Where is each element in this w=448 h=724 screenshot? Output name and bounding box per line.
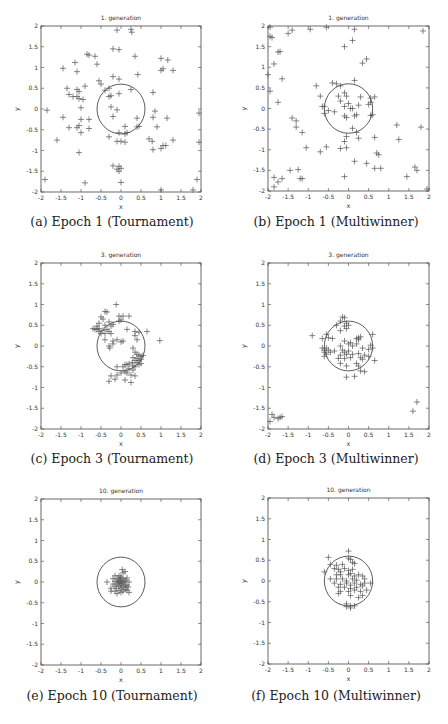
plus-marker [327,576,333,582]
x-tick-label: 1.5 [404,666,414,673]
y-tick-label: -1 [259,619,265,626]
data-points [321,548,373,611]
scatter-plot-f: 10. generation-2-1.5-1-0.500.511.52-2-1.… [0,0,448,724]
x-tick-label: 2 [427,666,431,673]
plus-marker [346,548,352,554]
y-tick-label: 2 [261,494,265,501]
x-tick-label: 1 [387,666,391,673]
y-tick-label: 0.5 [255,556,265,563]
x-axis-label: x [347,675,351,683]
x-tick-label: -1 [305,666,311,673]
y-tick-label: 0 [261,577,265,584]
y-tick-label: -2 [259,660,265,667]
x-tick-label: -1.5 [282,666,294,673]
panel-f: 10. generation-2-1.5-1-0.500.511.52-2-1.… [0,0,448,724]
plus-marker [364,587,370,593]
plus-marker [325,554,331,560]
plus-marker [356,572,362,578]
plus-marker [343,604,349,610]
plot-title: 10. generation [326,486,370,494]
y-axis-label: y [240,579,248,583]
caption-f: (f) Epoch 10 (Multiwinner) [224,688,448,703]
x-tick-label: -0.5 [323,666,335,673]
y-tick-label: -1.5 [253,639,265,646]
x-tick-label: -2 [265,666,271,673]
y-tick-label: -0.5 [253,598,265,605]
x-tick-label: 0 [347,666,351,673]
x-tick-label: 0.5 [364,666,374,673]
y-tick-label: 1.5 [255,515,265,522]
y-tick-label: 1 [261,536,265,543]
